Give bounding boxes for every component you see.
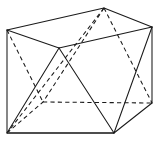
edge-brace-top-back-to-bottom-back <box>43 8 104 102</box>
edge-brace-top-front-to-bottom-front <box>59 48 114 133</box>
edge-top-right-to-top-front <box>59 27 152 48</box>
hidden-edge-group <box>7 8 152 133</box>
edge-brace-top-back-to-bottom-right <box>104 8 152 103</box>
geometric-figure-canvas <box>0 0 160 142</box>
edge-top-back-to-top-right <box>104 8 152 27</box>
edge-bottom-left-to-bottom-back <box>7 102 43 133</box>
solid-figure-drawing <box>0 0 160 142</box>
edge-brace-top-right-to-bottom-front <box>114 27 152 133</box>
edge-bottom-back-to-bottom-right <box>43 102 152 103</box>
edge-brace-top-front-to-bottom-left <box>7 48 59 133</box>
visible-edge-group <box>7 8 152 133</box>
